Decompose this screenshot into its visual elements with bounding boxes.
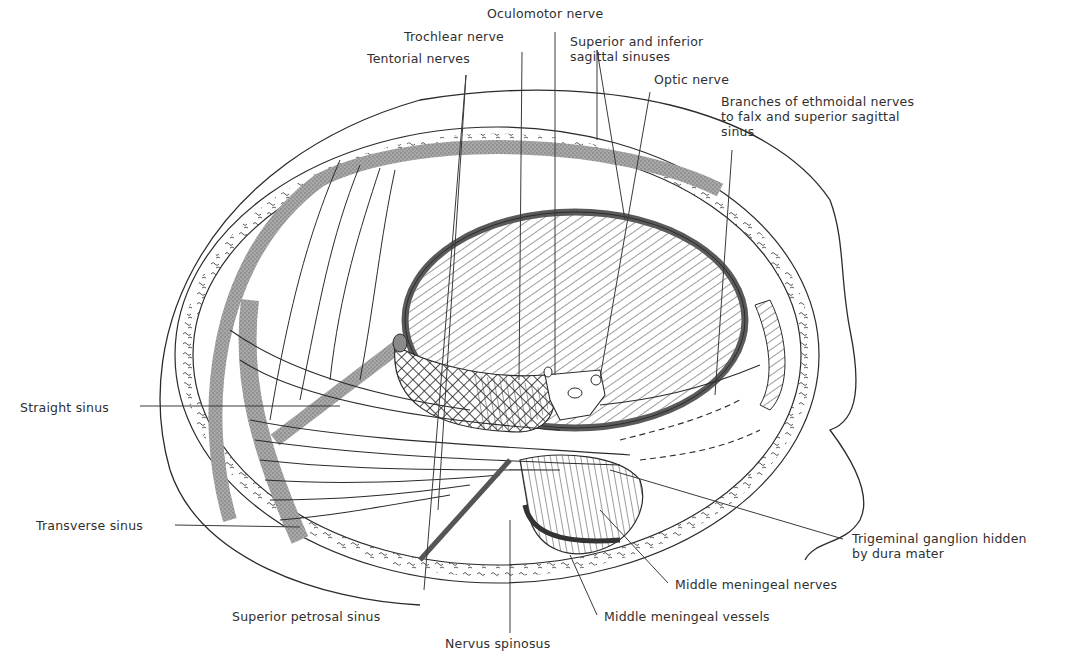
- straight-sinus-shape: [275, 345, 400, 440]
- label-sagittal-sinuses: Superior and inferior sagittal sinuses: [570, 34, 703, 64]
- label-middle-meningeal-nerves: Middle meningeal nerves: [675, 577, 837, 592]
- label-transverse-sinus: Transverse sinus: [36, 518, 143, 533]
- label-trigeminal-ganglion: Trigeminal ganglion hidden by dura mater: [852, 531, 1027, 561]
- label-middle-meningeal-vessels: Middle meningeal vessels: [604, 609, 770, 624]
- label-ethmoidal-nerves: Branches of ethmoidal nerves to falx and…: [721, 94, 914, 139]
- label-straight-sinus: Straight sinus: [20, 400, 109, 415]
- label-optic-nerve: Optic nerve: [654, 72, 729, 87]
- label-trochlear-nerve: Trochlear nerve: [404, 29, 504, 44]
- label-tentorial-nerves: Tentorial nerves: [367, 51, 470, 66]
- label-superior-petrosal-sinus: Superior petrosal sinus: [232, 609, 380, 624]
- label-nervus-spinosus: Nervus spinosus: [445, 636, 550, 651]
- label-oculomotor-nerve: Oculomotor nerve: [487, 6, 603, 21]
